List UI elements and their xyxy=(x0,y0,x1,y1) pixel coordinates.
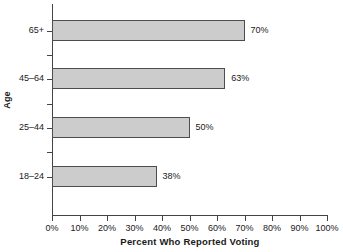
y-axis-tick-label: 45–64 xyxy=(0,73,44,83)
x-axis-tick xyxy=(190,216,191,221)
bar-value-label: 50% xyxy=(196,122,214,132)
x-axis-tick xyxy=(107,216,108,221)
y-axis-tick-label: 25–44 xyxy=(0,122,44,132)
y-axis-title: Age xyxy=(2,80,12,120)
x-axis-tick xyxy=(245,216,246,221)
bar xyxy=(52,68,225,89)
y-axis-minor-tick xyxy=(47,55,52,56)
x-axis-tick xyxy=(300,216,301,221)
y-axis-minor-tick xyxy=(47,152,52,153)
x-axis-tick xyxy=(217,216,218,221)
x-axis-tick-label: 100% xyxy=(307,223,343,233)
x-axis-tick xyxy=(52,216,53,221)
bar xyxy=(52,117,190,138)
x-axis-tick xyxy=(135,216,136,221)
y-axis-tick-label: 18–24 xyxy=(0,171,44,181)
x-axis-tick xyxy=(80,216,81,221)
x-axis-tick xyxy=(327,216,328,221)
x-axis-tick xyxy=(162,216,163,221)
x-axis-tick xyxy=(272,216,273,221)
bar-value-label: 63% xyxy=(231,73,249,83)
y-axis-minor-tick xyxy=(47,104,52,105)
bar xyxy=(52,166,157,187)
bar xyxy=(52,20,245,41)
y-axis-tick-label: 65+ xyxy=(0,25,44,35)
x-axis-title: Percent Who Reported Voting xyxy=(52,236,328,247)
bar-value-label: 70% xyxy=(251,25,269,35)
bar-value-label: 38% xyxy=(163,171,181,181)
